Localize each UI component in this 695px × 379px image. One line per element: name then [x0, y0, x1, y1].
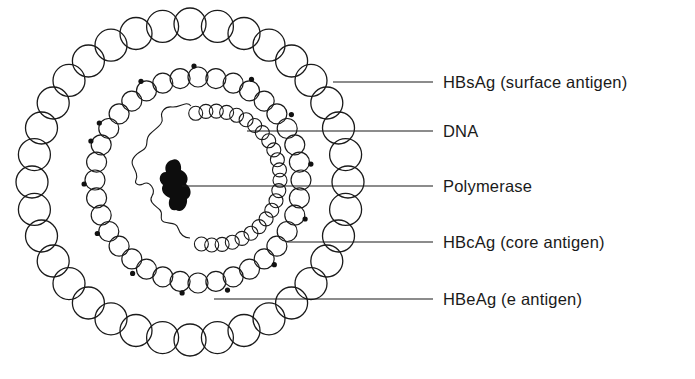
bead — [240, 259, 260, 279]
bead — [91, 135, 111, 155]
bead — [285, 205, 305, 225]
bead — [276, 287, 308, 319]
e-antigen-dot — [272, 262, 277, 267]
bead — [194, 237, 208, 251]
dna-bead-ring — [189, 104, 287, 252]
bead — [26, 112, 58, 144]
bead — [85, 170, 105, 190]
bead — [295, 64, 327, 96]
bead — [267, 104, 287, 124]
bead — [254, 249, 274, 269]
bead — [267, 236, 287, 256]
bead — [270, 153, 284, 167]
bead — [95, 29, 127, 61]
bead — [87, 188, 107, 208]
bead — [170, 69, 190, 89]
bead — [289, 152, 309, 172]
e-antigen-dot — [88, 138, 93, 143]
e-antigen-dot — [138, 79, 143, 84]
bead — [72, 287, 104, 319]
e-antigen-dot — [130, 271, 135, 276]
label-hbeag: HBeAg (e antigen) — [443, 289, 582, 309]
bead — [323, 220, 355, 252]
bead — [225, 235, 239, 249]
e-antigen-dot — [303, 216, 308, 221]
bead — [109, 236, 129, 256]
bead — [137, 259, 157, 279]
bead — [153, 267, 173, 287]
bead — [189, 106, 203, 120]
polymerase-blob — [160, 159, 191, 211]
label-dna: DNA — [443, 121, 478, 141]
bead — [206, 271, 226, 291]
label-polymerase: Polymerase — [443, 176, 532, 196]
bead — [188, 67, 208, 87]
bead — [254, 91, 274, 111]
bead — [276, 45, 308, 77]
bead — [295, 268, 327, 300]
bead — [37, 87, 69, 119]
bead — [311, 87, 343, 119]
core-antigen-ring — [85, 67, 311, 293]
e-antigen-dot — [249, 77, 254, 82]
bead — [122, 249, 142, 269]
bead — [277, 222, 297, 242]
bead — [228, 18, 260, 50]
bead — [120, 315, 152, 347]
surface-antigen-ring — [16, 8, 364, 356]
bead — [122, 91, 142, 111]
e-antigen-dot — [191, 64, 196, 69]
bead — [230, 108, 244, 122]
e-antigen-dot — [180, 290, 185, 295]
bead — [269, 194, 283, 208]
bead — [240, 81, 260, 101]
bead — [53, 268, 85, 300]
e-antigen-dot — [95, 231, 100, 236]
bead — [223, 73, 243, 93]
e-antigen-dot — [225, 288, 230, 293]
bead — [72, 45, 104, 77]
bead — [53, 64, 85, 96]
hbv-structure-diagram — [0, 0, 695, 379]
bead — [99, 222, 119, 242]
bead — [253, 303, 285, 335]
bead — [95, 303, 127, 335]
e-antigen-dot — [97, 120, 102, 125]
label-hbsag: HBsAg (surface antigen) — [443, 72, 627, 92]
bead — [188, 273, 208, 293]
bead — [253, 29, 285, 61]
bead — [137, 81, 157, 101]
e-antigen-dot — [308, 162, 313, 167]
bead — [99, 119, 119, 139]
bead — [277, 119, 297, 139]
e-antigen-dot — [289, 112, 294, 117]
bead — [37, 245, 69, 277]
bead — [311, 245, 343, 277]
bead — [291, 170, 311, 190]
e-antigen-dots — [82, 64, 314, 296]
bead — [220, 105, 234, 119]
e-antigen-dot — [82, 181, 87, 186]
label-hbcag: HBcAg (core antigen) — [443, 232, 605, 252]
bead — [109, 104, 129, 124]
